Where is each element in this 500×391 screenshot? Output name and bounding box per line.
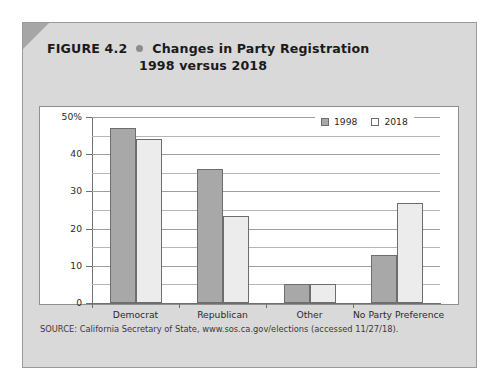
y-axis-label: 50% — [40, 111, 82, 122]
y-axis-tick — [86, 191, 92, 192]
figure-title: FIGURE 4.2 Changes in Party Registration… — [47, 40, 457, 74]
y-axis-label: 10 — [40, 260, 82, 271]
bar-democrat-1998 — [110, 128, 136, 303]
legend-swatch-1998 — [321, 118, 329, 126]
bar-republican-2018 — [223, 216, 249, 303]
x-axis-tick — [92, 303, 93, 308]
gridline-minor — [92, 136, 440, 137]
legend-item-2018: 2018 — [371, 116, 407, 127]
legend-item-1998: 1998 — [321, 116, 357, 127]
figure-title-line-1: FIGURE 4.2 Changes in Party Registration — [47, 40, 457, 57]
y-axis-tick — [86, 117, 92, 118]
legend-label-2018: 2018 — [384, 116, 407, 127]
figure-card: FIGURE 4.2 Changes in Party Registration… — [22, 22, 477, 368]
bar-no-party-preference-2018 — [397, 203, 423, 303]
y-axis-label: 30 — [40, 185, 82, 196]
bar-democrat-2018 — [136, 139, 162, 303]
x-axis-label-no-party-preference: No Party Preference — [353, 309, 440, 320]
x-axis-tick — [179, 303, 180, 308]
y-axis-tick — [86, 154, 92, 155]
legend-swatch-2018 — [371, 118, 379, 126]
bar-republican-1998 — [197, 169, 223, 303]
chart-legend: 19982018 — [315, 113, 414, 130]
figure-title-text-2: 1998 versus 2018 — [47, 57, 457, 74]
y-axis-label: 40 — [40, 148, 82, 159]
y-axis-label: 20 — [40, 223, 82, 234]
x-axis-tick — [353, 303, 354, 308]
y-axis-label: 0 — [40, 297, 82, 308]
y-axis-tick — [86, 229, 92, 230]
corner-fold-icon — [23, 23, 49, 49]
bar-other-1998 — [284, 284, 310, 303]
y-axis-tick — [86, 266, 92, 267]
bar-no-party-preference-1998 — [371, 255, 397, 303]
source-note: SOURCE: California Secretary of State, w… — [40, 324, 398, 334]
x-axis-label-other: Other — [266, 309, 353, 320]
legend-label-1998: 1998 — [334, 116, 357, 127]
chart-plot-panel: 19982018 01020304050%DemocratRepublicanO… — [39, 106, 459, 305]
bar-other-2018 — [310, 284, 336, 303]
figure-title-text-1: Changes in Party Registration — [152, 40, 369, 57]
x-axis-label-democrat: Democrat — [92, 309, 179, 320]
x-axis-tick — [266, 303, 267, 308]
bullet-dot-icon — [136, 45, 143, 52]
figure-number: FIGURE 4.2 — [47, 40, 127, 57]
chart-plot-area — [92, 117, 440, 303]
x-axis-label-republican: Republican — [179, 309, 266, 320]
